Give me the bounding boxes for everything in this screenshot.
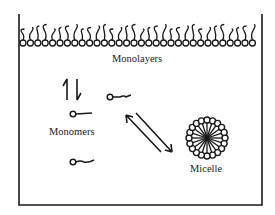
monomer <box>70 159 94 165</box>
micelle-equilibrium-diagram <box>0 0 275 215</box>
monomer <box>107 94 131 100</box>
diagonal-equilibrium-arrows <box>126 113 172 152</box>
monomers-label: Monomers <box>49 126 95 137</box>
monomer <box>70 111 92 117</box>
micelle-label: Micelle <box>190 163 222 174</box>
vertical-equilibrium-arrows <box>63 79 81 100</box>
monolayers-label: Monolayers <box>112 53 162 64</box>
monolayer <box>20 25 255 47</box>
micelle <box>186 117 228 159</box>
